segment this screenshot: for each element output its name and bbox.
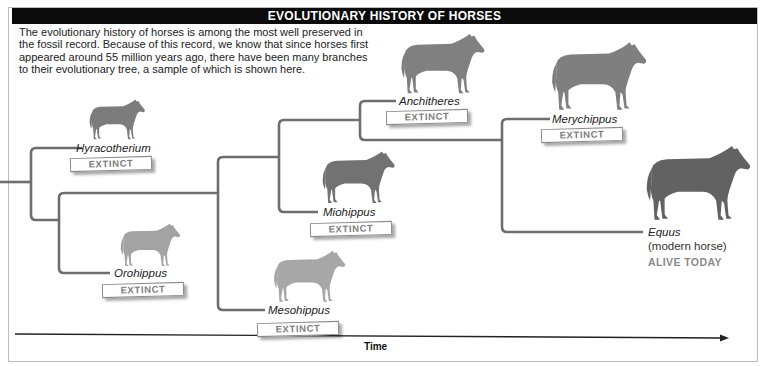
equus-horse-icon (640, 141, 752, 227)
anchitheres-horse-icon (396, 33, 486, 96)
miohippus-horse-icon (318, 149, 396, 207)
time-axis-label: Time (364, 341, 387, 352)
taxon-label-miohippus: Miohippus (323, 206, 375, 218)
status-badge-miohippus: EXTINCT (310, 221, 392, 237)
hyracotherium-horse-icon (86, 99, 146, 141)
taxon-label-merychippus: Merychippus (552, 113, 617, 125)
taxon-label-hyracotherium: Hyracotherium (76, 142, 151, 154)
arrow-head-icon (720, 335, 729, 342)
status-badge-equus: ALIVE TODAY (648, 256, 722, 268)
status-badge-mesohippus: EXTINCT (257, 321, 339, 337)
status-badge-orohippus: EXTINCT (102, 282, 184, 298)
mesohippus-horse-icon (268, 250, 348, 304)
taxon-label-orohippus: Orohippus (114, 267, 167, 279)
merychippus-horse-icon (546, 41, 648, 113)
status-badge-merychippus: EXTINCT (541, 127, 623, 143)
orohippus-horse-icon (114, 223, 184, 268)
taxon-label-equus: Equus (648, 226, 681, 238)
taxon-sublabel-equus: (modern horse) (648, 240, 727, 252)
taxon-label-mesohippus: Mesohippus (268, 304, 330, 316)
taxon-label-anchitheres: Anchitheres (399, 95, 460, 107)
status-badge-hyracotherium: EXTINCT (70, 156, 152, 172)
status-badge-anchitheres: EXTINCT (386, 109, 468, 125)
